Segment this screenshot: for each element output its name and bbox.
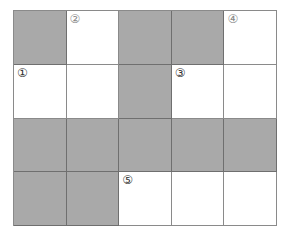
grid-cell-r2c1[interactable]: ① — [14, 65, 67, 119]
grid-cell-r3c5 — [224, 119, 277, 173]
grid-cell-r1c3 — [119, 11, 172, 65]
grid-cell-r1c1 — [14, 11, 67, 65]
clue-number-2: ② — [70, 13, 81, 26]
grid-cell-r1c5[interactable]: ④ — [224, 11, 277, 65]
clue-number-4: ④ — [227, 13, 238, 26]
clue-number-1: ① — [17, 67, 28, 80]
grid-cell-r3c4 — [172, 119, 225, 173]
crossword-grid: ② ④ ① ③ ⑤ — [13, 10, 277, 226]
grid-cell-r1c2[interactable]: ② — [67, 11, 120, 65]
clue-number-3: ③ — [175, 67, 186, 80]
grid-cell-r3c3 — [119, 119, 172, 173]
grid-cell-r3c2 — [67, 119, 120, 173]
grid-cell-r4c1 — [14, 172, 67, 226]
grid-cell-r3c1 — [14, 119, 67, 173]
grid-cell-r4c2 — [67, 172, 120, 226]
grid-cell-r2c4[interactable]: ③ — [172, 65, 225, 119]
grid-cell-r2c5[interactable] — [224, 65, 277, 119]
clue-number-5: ⑤ — [122, 174, 133, 187]
grid-cell-r4c4[interactable] — [172, 172, 225, 226]
grid-cell-r2c2[interactable] — [67, 65, 120, 119]
grid-cell-r4c3[interactable]: ⑤ — [119, 172, 172, 226]
grid-cell-r1c4 — [172, 11, 225, 65]
grid-cell-r2c3 — [119, 65, 172, 119]
grid-cell-r4c5[interactable] — [224, 172, 277, 226]
